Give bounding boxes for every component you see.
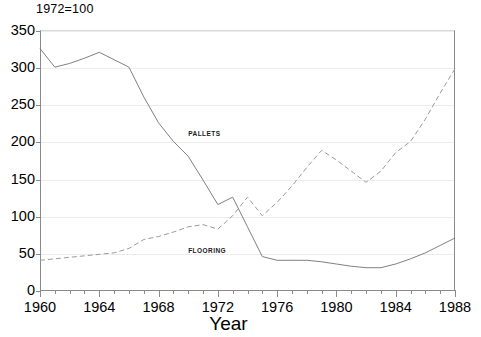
x-tick-minor xyxy=(381,290,382,294)
y-tick-label: 150 xyxy=(11,171,35,187)
x-tick-major xyxy=(218,290,219,297)
x-axis-title: Year xyxy=(0,313,481,335)
x-axis-title-text: Year xyxy=(209,313,247,334)
x-tick-minor xyxy=(203,290,204,294)
x-tick-minor xyxy=(366,290,367,294)
series-line-pallets xyxy=(40,49,455,268)
x-tick-major xyxy=(99,290,100,297)
y-tick-label: 300 xyxy=(11,59,35,75)
y-tick-label: 350 xyxy=(11,22,35,38)
y-tick-label: 50 xyxy=(19,245,35,261)
x-tick-minor xyxy=(188,290,189,294)
y-axis-labels: 050100150200250300350 xyxy=(0,30,35,290)
series-lines xyxy=(40,30,455,290)
y-tick-label: 100 xyxy=(11,208,35,224)
series-label-flooring: FLOORING xyxy=(188,247,226,254)
x-tick-major xyxy=(336,290,337,297)
x-tick-minor xyxy=(233,290,234,294)
x-tick-minor xyxy=(322,290,323,294)
x-tick-minor xyxy=(262,290,263,294)
x-tick-minor xyxy=(84,290,85,294)
x-tick-minor xyxy=(307,290,308,294)
y-tick-label: 0 xyxy=(27,282,35,298)
x-tick-minor xyxy=(351,290,352,294)
x-tick-minor xyxy=(425,290,426,294)
x-tick-minor xyxy=(114,290,115,294)
y-tick-label: 200 xyxy=(11,133,35,149)
x-tick-minor xyxy=(292,290,293,294)
x-tick-minor xyxy=(55,290,56,294)
x-tick-minor xyxy=(144,290,145,294)
series-label-pallets: PALLETS xyxy=(188,130,220,137)
x-tick-major xyxy=(277,290,278,297)
x-tick-minor xyxy=(248,290,249,294)
chart-root: 1972=100 050100150200250300350 196019641… xyxy=(0,0,481,337)
x-tick-minor xyxy=(440,290,441,294)
x-tick-minor xyxy=(70,290,71,294)
x-tick-major xyxy=(455,290,456,297)
x-tick-major xyxy=(396,290,397,297)
x-tick-minor xyxy=(173,290,174,294)
chart-title: 1972=100 xyxy=(36,2,94,16)
x-tick-minor xyxy=(411,290,412,294)
x-tick-major xyxy=(159,290,160,297)
x-tick-minor xyxy=(129,290,130,294)
series-line-flooring xyxy=(40,69,455,261)
y-tick-label: 250 xyxy=(11,96,35,112)
x-tick-major xyxy=(40,290,41,297)
